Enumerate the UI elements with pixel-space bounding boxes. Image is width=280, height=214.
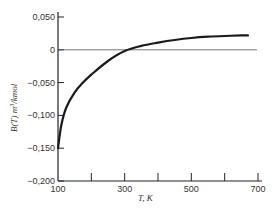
x-axis-ticks: 100300500700 xyxy=(50,173,265,194)
x-axis-title: T, K xyxy=(138,193,154,203)
y-tick-label: 0 xyxy=(50,45,55,55)
x-tick-label: 700 xyxy=(250,184,265,194)
y-axis-title: B(T) m3/kmol xyxy=(9,83,19,132)
y-tick-label: 0,050 xyxy=(32,12,55,22)
data-curve xyxy=(58,35,248,148)
y-tick-label: −0,150 xyxy=(27,143,55,153)
x-tick-label: 100 xyxy=(50,184,65,194)
x-tick-label: 500 xyxy=(184,184,199,194)
y-tick-label: −0,050 xyxy=(27,78,55,88)
chart: 0,0500−0,050−0,100−0,150−0,200 100300500… xyxy=(0,0,280,214)
y-tick-label: −0,100 xyxy=(27,110,55,120)
x-tick-label: 300 xyxy=(117,184,132,194)
